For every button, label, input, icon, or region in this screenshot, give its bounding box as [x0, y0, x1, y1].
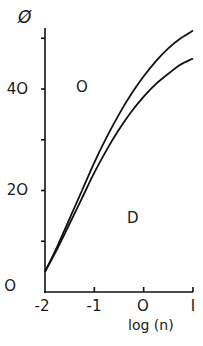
region-label-d: D — [127, 211, 139, 226]
y-tick-label-40: 4O — [0, 82, 28, 97]
x-tick-label-0: O — [131, 299, 155, 314]
axes — [41, 28, 193, 293]
y-axis-label: Ø — [18, 9, 31, 26]
curves — [45, 31, 193, 272]
y-tick-label-0: O — [0, 279, 16, 294]
y-tick-label-20: 2O — [0, 183, 28, 198]
plot-area — [0, 0, 203, 346]
region-label-o: O — [76, 80, 88, 95]
x-tick-label-minus-2: -2 — [30, 299, 54, 314]
lower-curve — [45, 59, 193, 272]
x-tick-label-minus-1: -1 — [82, 299, 106, 314]
upper-curve — [45, 31, 193, 272]
x-tick-label-1: I — [181, 299, 203, 314]
x-axis-label: log (n) — [128, 318, 174, 332]
chart: Ø 4O 2O O -2 -1 O I log (n) O D — [0, 0, 203, 346]
